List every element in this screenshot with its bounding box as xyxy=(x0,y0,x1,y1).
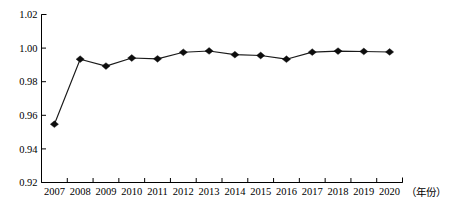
x-axis-tick-label: 2014 xyxy=(224,186,246,197)
chart-canvas: 0.920.940.960.981.001.02 200720082009201… xyxy=(0,0,450,214)
line-chart: 0.920.940.960.981.001.02 200720082009201… xyxy=(0,0,450,214)
x-axis-tick-label: 2019 xyxy=(353,186,374,197)
y-axis-tick-label: 0.92 xyxy=(19,177,37,188)
x-axis-tick-label: 2010 xyxy=(121,186,142,197)
y-axis-tick-label: 0.96 xyxy=(19,110,37,121)
y-axis-tick-label: 0.94 xyxy=(19,144,38,155)
x-axis-tick-label: 2012 xyxy=(173,186,194,197)
x-axis-tick-label: 2016 xyxy=(276,186,297,197)
y-axis-tick-label: 0.98 xyxy=(19,76,37,87)
x-axis-name-label: （年份） xyxy=(406,186,446,198)
x-axis-tick-label: 2007 xyxy=(44,186,65,197)
x-axis-tick-label: 2011 xyxy=(147,186,168,197)
x-axis-tick-label: 2020 xyxy=(379,186,400,197)
x-axis-tick-label: 2017 xyxy=(302,186,323,197)
x-axis-tick-label: 2015 xyxy=(250,186,271,197)
x-axis-tick-label: 2018 xyxy=(328,186,349,197)
y-axis-tick-label: 1.02 xyxy=(19,9,37,20)
x-axis-tick-label: 2008 xyxy=(70,186,91,197)
y-axis-tick-label: 1.00 xyxy=(19,43,37,54)
x-axis-tick-label: 2009 xyxy=(95,186,116,197)
x-axis-tick-label: 2013 xyxy=(199,186,220,197)
